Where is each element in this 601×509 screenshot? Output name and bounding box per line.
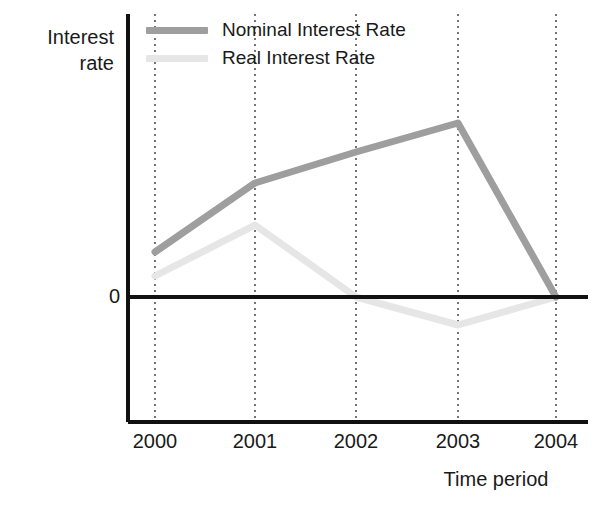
legend-label-nominal: Nominal Interest Rate <box>222 19 406 41</box>
interest-rate-chart: Interest rate 0 Nominal Interest Rate <box>0 0 601 509</box>
x-tick-2001: 2001 <box>215 430 295 453</box>
legend-swatch-nominal <box>146 27 208 34</box>
legend-swatch-real <box>146 55 208 62</box>
legend-item-real[interactable]: Real Interest Rate <box>146 44 406 72</box>
x-tick-2004: 2004 <box>516 430 596 453</box>
x-tick-2000: 2000 <box>115 430 195 453</box>
legend: Nominal Interest Rate Real Interest Rate <box>146 16 406 72</box>
series-line-nominal <box>155 123 556 297</box>
x-axis-title: Time period <box>398 468 594 491</box>
legend-label-real: Real Interest Rate <box>222 47 375 69</box>
x-tick-2003: 2003 <box>418 430 498 453</box>
legend-item-nominal[interactable]: Nominal Interest Rate <box>146 16 406 44</box>
x-axis-tick-labels: 2000 2001 2002 2003 2004 <box>0 430 601 460</box>
x-tick-2002: 2002 <box>316 430 396 453</box>
gridlines <box>155 14 556 422</box>
